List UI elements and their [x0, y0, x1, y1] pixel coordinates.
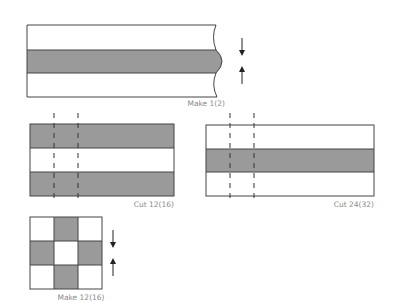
band-light-bottom: [206, 172, 374, 196]
cut-light-strip-set: Cut 24(32): [206, 113, 374, 209]
strip-set-bottom-band: [27, 73, 217, 97]
nine-patch-block: Make 12(16): [30, 217, 113, 302]
step-label-cut-12: Cut 12(16): [134, 200, 174, 209]
strip-set-top-band: [27, 25, 216, 50]
band-dark-top: [30, 124, 174, 148]
step-label-make-1: Make 1(2): [187, 99, 225, 108]
step-label-make-12: Make 12(16): [57, 293, 104, 302]
band-dark-bottom: [30, 172, 174, 196]
cut-dark-strip-set: Cut 12(16): [30, 113, 174, 209]
strip-set-make-1: Make 1(2): [27, 25, 242, 108]
strip-set-middle-band: [27, 50, 222, 73]
step-label-cut-24: Cut 24(32): [334, 200, 374, 209]
quilt-diagram: Make 1(2) Cut 12(16) Cut 24(32): [0, 0, 395, 306]
band-light-middle: [30, 148, 174, 172]
band-dark-middle: [206, 149, 374, 172]
band-light-top: [206, 125, 374, 149]
